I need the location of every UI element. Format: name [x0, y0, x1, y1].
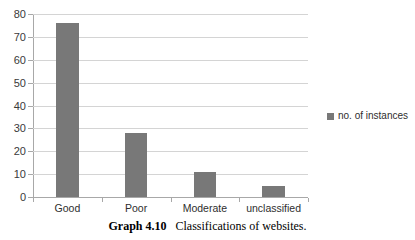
y-axis-tick-label: 70 [2, 31, 26, 42]
x-axis-tick [308, 198, 309, 202]
x-axis-tick-label: Good [33, 203, 102, 214]
bar[interactable] [194, 172, 217, 197]
y-axis-tick [28, 83, 33, 84]
x-axis-labels: GoodPoorModerateunclassified [33, 203, 308, 217]
y-axis-tick [28, 151, 33, 152]
y-axis-tick [28, 60, 33, 61]
x-axis-tick-label: Moderate [171, 203, 240, 214]
chart-legend: no. of instances [327, 111, 408, 121]
y-axis-tick-label: 30 [2, 123, 26, 134]
y-axis-tick [28, 106, 33, 107]
caption-number: Graph 4.10 [109, 219, 167, 233]
x-axis-tick [102, 198, 103, 202]
y-axis-tick-label: 20 [2, 146, 26, 157]
chart-plot-area: 01020304050607080 GoodPoorModerateunclas… [0, 0, 415, 215]
figure: 01020304050607080 GoodPoorModerateunclas… [0, 0, 415, 240]
x-axis-tick [239, 198, 240, 202]
y-axis-tick [28, 128, 33, 129]
y-axis-labels: 01020304050607080 [0, 14, 26, 197]
y-axis-tick-label: 60 [2, 54, 26, 65]
plot-box [33, 14, 308, 197]
legend-label: no. of instances [338, 111, 408, 121]
bar-slot [239, 14, 308, 197]
caption-text: Classifications of websites. [176, 219, 307, 233]
y-axis-tick-label: 50 [2, 77, 26, 88]
bar-slot [33, 14, 102, 197]
y-axis-tick-label: 10 [2, 169, 26, 180]
y-axis-tick-label: 40 [2, 100, 26, 111]
bar[interactable] [125, 133, 148, 197]
x-axis-tick [171, 198, 172, 202]
bar[interactable] [56, 23, 79, 197]
y-axis-tick [28, 174, 33, 175]
bar-slot [102, 14, 171, 197]
bar-slot [171, 14, 240, 197]
x-axis-tick-label: Poor [102, 203, 171, 214]
figure-caption: Graph 4.10Classifications of websites. [0, 220, 415, 233]
y-axis-tick [28, 14, 33, 15]
y-axis-tick [28, 37, 33, 38]
legend-swatch-icon [327, 113, 334, 120]
bar[interactable] [262, 186, 285, 197]
x-axis-tick [33, 198, 34, 202]
x-axis-tick-label: unclassified [239, 203, 308, 214]
bar-series [33, 14, 308, 197]
y-axis-tick-label: 0 [2, 192, 26, 203]
y-axis-tick-label: 80 [2, 9, 26, 20]
